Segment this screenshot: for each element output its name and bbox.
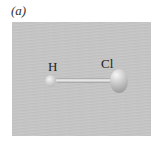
hydrogen-atom-sphere [45,75,56,87]
hydrogen-label: H [48,59,57,75]
bond-stick [56,78,114,83]
panel-label: (a) [11,3,26,19]
molecule-panel: H Cl [12,22,151,136]
chlorine-label: Cl [101,56,113,72]
chlorine-atom-sphere [110,69,128,93]
